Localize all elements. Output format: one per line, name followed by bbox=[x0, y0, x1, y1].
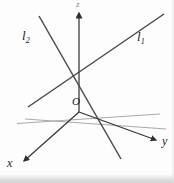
line-l2-label: l2 bbox=[22, 29, 30, 42]
line-l2 bbox=[39, 16, 121, 159]
right-edge-shading bbox=[171, 0, 174, 183]
plane-edge-lower-line bbox=[25, 119, 166, 129]
geometry-figure: l2 l1 z x y O bbox=[0, 0, 174, 183]
axis-x-label: x bbox=[7, 157, 12, 169]
line-l1-label: l1 bbox=[137, 30, 145, 43]
y-axis-line bbox=[79, 112, 156, 140]
axis-z-label: z bbox=[76, 0, 80, 9]
origin-label: O bbox=[72, 96, 80, 107]
line-l1 bbox=[28, 14, 164, 107]
bottom-shadow-band bbox=[0, 174, 174, 183]
axis-y-label: y bbox=[162, 135, 167, 147]
figure-canvas bbox=[0, 0, 174, 183]
